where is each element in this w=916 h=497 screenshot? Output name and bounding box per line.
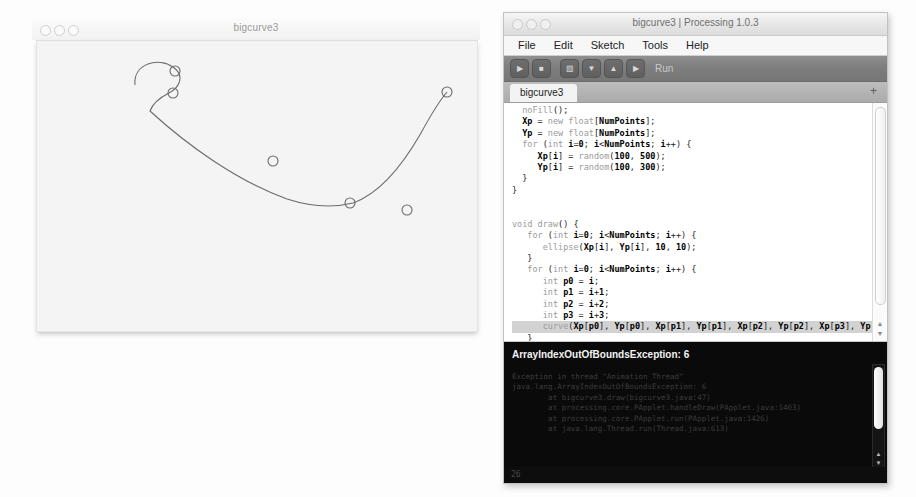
menu-edit[interactable]: Edit: [545, 36, 582, 55]
pde-statusbar: 26: [504, 467, 887, 483]
code-line: int p0 = i;: [512, 276, 873, 287]
code-line: Xp = new float[NumPoints];: [512, 116, 873, 127]
open-button[interactable]: ▼: [582, 59, 601, 78]
stop-button[interactable]: ■: [532, 59, 551, 78]
curve-point: [402, 205, 412, 215]
run-button[interactable]: ▶: [510, 59, 529, 78]
new-button[interactable]: ▧: [560, 59, 579, 78]
curve-point: [268, 156, 278, 166]
console-scroll-down-icon[interactable]: ▼: [875, 460, 882, 467]
curve-point-group: [168, 66, 452, 215]
code-line: }: [512, 173, 873, 184]
scroll-down-icon[interactable]: ▼: [876, 330, 884, 338]
console-scroll-up-icon[interactable]: ▲: [875, 451, 882, 458]
status-line-number: 26: [511, 470, 521, 479]
save-button[interactable]: ▲: [604, 59, 623, 78]
editor-scrollbar[interactable]: ▲ ▼: [872, 103, 887, 341]
code-line: int p1 = i+1;: [512, 287, 873, 298]
console-scroll-thumb[interactable]: [874, 367, 883, 429]
code-line: [512, 196, 873, 207]
curve-stroke: [135, 62, 447, 206]
code-line: for (int i=0; i<NumPoints; i++) {: [512, 139, 873, 150]
curve-point: [170, 66, 180, 76]
code-line: for (int i=0; i<NumPoints; i++) {: [512, 230, 873, 241]
code-line: noFill();: [512, 105, 873, 116]
curve-drawing: [37, 41, 477, 331]
console-stack-trace: Exception in thread "Animation Thread" j…: [512, 372, 869, 434]
menu-file[interactable]: File: [509, 36, 545, 55]
screenshot-root: bigcurve3 bigcurve3 | Processing 1.0.3 F…: [0, 0, 916, 497]
scroll-up-icon[interactable]: ▲: [876, 320, 884, 328]
code-line: for (int i=0; i<NumPoints; i++) {: [512, 264, 873, 275]
code-line: int p2 = i+2;: [512, 299, 873, 310]
add-tab-icon[interactable]: +: [868, 86, 879, 97]
sketch-canvas[interactable]: [36, 40, 478, 332]
pde-toolbar: ▶ ■ ▧ ▼ ▲ ▶ Run: [504, 56, 887, 82]
menu-help[interactable]: Help: [677, 36, 718, 55]
sketch-display-window: bigcurve3: [32, 18, 480, 336]
code-text[interactable]: noFill(); Xp = new float[NumPoints]; Yp …: [504, 105, 873, 342]
code-line: }: [512, 253, 873, 264]
console-panel: ArrayIndexOutOfBoundsException: 6 Except…: [504, 342, 887, 478]
pde-menubar: File Edit Sketch Tools Help: [504, 36, 887, 56]
export-button[interactable]: ▶: [626, 59, 645, 78]
tab-bigcurve3[interactable]: bigcurve3: [510, 84, 577, 102]
menu-sketch[interactable]: Sketch: [582, 36, 634, 55]
code-line: void draw() {: [512, 219, 873, 230]
sketch-titlebar[interactable]: bigcurve3: [32, 18, 480, 40]
pde-tabbar: bigcurve3 +: [504, 82, 887, 103]
code-line: }: [512, 185, 873, 196]
menu-tools[interactable]: Tools: [633, 36, 677, 55]
code-line: Xp[i] = random(100, 500);: [512, 151, 873, 162]
code-line: Yp = new float[NumPoints];: [512, 128, 873, 139]
code-line: }: [512, 333, 873, 342]
code-line: curve(Xp[p0], Yp[p0], Xp[p1], Yp[p1], Xp…: [512, 321, 873, 332]
pde-titlebar[interactable]: bigcurve3 | Processing 1.0.3: [504, 13, 887, 36]
console-scrollbar[interactable]: ▲ ▼: [872, 364, 885, 470]
console-error-message: ArrayIndexOutOfBoundsException: 6: [512, 349, 689, 360]
code-line: Yp[i] = random(100, 300);: [512, 162, 873, 173]
code-line: int p3 = i+3;: [512, 310, 873, 321]
code-line: ellipse(Xp[i], Yp[i], 10, 10);: [512, 242, 873, 253]
sketch-window-title: bigcurve3: [32, 22, 480, 33]
pde-window-title: bigcurve3 | Processing 1.0.3: [504, 17, 887, 28]
processing-ide-window: bigcurve3 | Processing 1.0.3 File Edit S…: [503, 12, 888, 484]
run-label: Run: [655, 63, 673, 74]
code-editor[interactable]: noFill(); Xp = new float[NumPoints]; Yp …: [504, 103, 887, 342]
editor-scroll-thumb[interactable]: [875, 107, 886, 305]
code-line: [512, 208, 873, 219]
